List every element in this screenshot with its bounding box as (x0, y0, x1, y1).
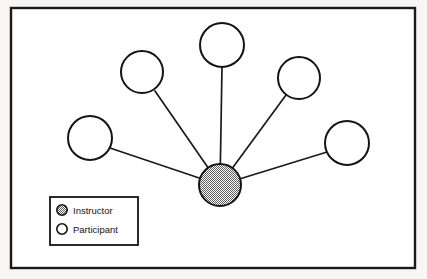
participant-node-far-right[interactable] (325, 121, 369, 165)
participant-node-far-left[interactable] (68, 116, 112, 160)
participant-node-top[interactable] (200, 23, 244, 67)
legend-swatch-instructor-icon (57, 205, 67, 215)
legend-item-instructor[interactable]: Instructor (57, 205, 113, 216)
legend-label-instructor: Instructor (73, 205, 113, 216)
legend: Instructor Participant (50, 197, 138, 245)
participant-node-upper-left[interactable] (121, 51, 163, 93)
legend-label-participant: Participant (73, 224, 118, 235)
instructor-hub-node[interactable] (199, 164, 241, 206)
diagram-page: Instructor Participant (0, 0, 427, 279)
legend-swatch-participant-icon (57, 224, 67, 234)
legend-item-participant[interactable]: Participant (57, 224, 118, 235)
network-diagram: Instructor Participant (0, 0, 427, 279)
participant-node-upper-right[interactable] (278, 57, 320, 99)
